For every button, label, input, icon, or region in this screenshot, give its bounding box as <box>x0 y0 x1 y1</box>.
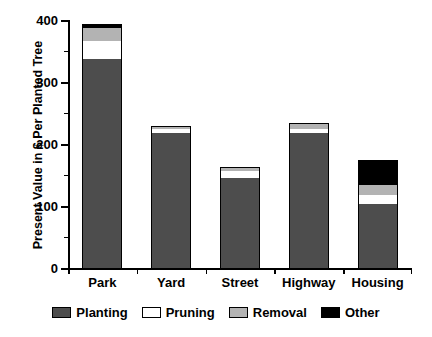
y-tick-mark <box>61 206 68 208</box>
y-axis-line <box>68 20 70 268</box>
y-tick-label: 400 <box>36 13 58 28</box>
x-tick-mark <box>68 268 70 274</box>
y-tick-label: 100 <box>36 199 58 214</box>
bar-segment-park-removal <box>82 28 122 41</box>
legend-swatch-planting-icon <box>52 307 71 318</box>
bar-segment-street-pruning <box>220 171 260 178</box>
y-tick-label: 300 <box>36 75 58 90</box>
bar-segment-housing-pruning <box>358 195 398 204</box>
y-tick-label: 0 <box>51 261 58 276</box>
bar-park[interactable] <box>82 24 122 268</box>
x-tick-mark <box>343 268 345 274</box>
x-tick-mark <box>411 268 413 274</box>
x-axis-label-street: Street <box>222 275 259 290</box>
y-tick-mark-minor <box>64 237 68 238</box>
legend-item-other[interactable]: Other <box>321 305 380 320</box>
chart-legend: PlantingPruningRemovalOther <box>0 305 432 320</box>
bar-segment-housing-other <box>358 160 398 185</box>
legend-swatch-pruning-icon <box>142 307 161 318</box>
x-tick-mark <box>206 268 208 274</box>
x-tick-mark <box>137 268 139 274</box>
y-tick-mark-minor <box>64 175 68 176</box>
x-axis-label-park: Park <box>88 275 116 290</box>
plot-area: 0100200300400 ParkYardStreetHighwayHousi… <box>68 20 412 268</box>
x-axis-label-yard: Yard <box>157 275 185 290</box>
y-tick-mark-minor <box>64 113 68 114</box>
bar-segment-housing-planting <box>358 204 398 268</box>
y-tick-mark-minor <box>64 51 68 52</box>
legend-label: Removal <box>253 305 307 320</box>
y-tick-label: 200 <box>36 137 58 152</box>
bar-segment-street-planting <box>220 178 260 268</box>
legend-swatch-other-icon <box>321 307 340 318</box>
bar-street[interactable] <box>220 167 260 268</box>
bar-segment-highway-planting <box>289 133 329 268</box>
legend-item-pruning[interactable]: Pruning <box>142 305 215 320</box>
legend-item-planting[interactable]: Planting <box>52 305 127 320</box>
bar-highway[interactable] <box>289 123 329 268</box>
bar-segment-park-pruning <box>82 41 122 59</box>
y-tick-mark <box>61 144 68 146</box>
legend-label: Planting <box>76 305 127 320</box>
bar-housing[interactable] <box>358 160 398 268</box>
bar-segment-park-planting <box>82 59 122 268</box>
bar-segment-housing-removal <box>358 185 398 195</box>
y-tick-mark <box>61 20 68 22</box>
x-axis-label-highway: Highway <box>282 275 335 290</box>
y-tick-mark <box>61 82 68 84</box>
bar-yard[interactable] <box>151 126 191 268</box>
legend-label: Other <box>345 305 380 320</box>
y-tick-mark <box>61 268 68 270</box>
x-axis-label-housing: Housing <box>352 275 404 290</box>
x-axis-line <box>68 268 412 270</box>
legend-swatch-removal-icon <box>229 307 248 318</box>
x-tick-mark <box>274 268 276 274</box>
stacked-bar-chart: Present Value in $ Per Planted Tree 0100… <box>0 0 432 337</box>
bar-segment-yard-planting <box>151 133 191 268</box>
legend-item-removal[interactable]: Removal <box>229 305 307 320</box>
legend-label: Pruning <box>166 305 215 320</box>
